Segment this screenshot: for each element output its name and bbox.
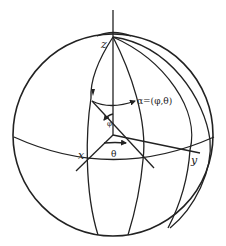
- y-axis: [113, 135, 200, 153]
- direction-vector: [92, 101, 154, 168]
- alpha-label: α=(φ,θ): [137, 96, 172, 106]
- y-label: y: [190, 154, 198, 167]
- meridian-lines: [87, 37, 210, 235]
- theta-arc: [104, 143, 126, 144]
- x-label: x: [78, 149, 85, 162]
- z-label: z: [100, 38, 107, 51]
- sphere-diagram: z x y α=(φ,θ) φ θ: [0, 0, 226, 246]
- theta-label: θ: [111, 149, 116, 159]
- phi-label: φ: [107, 120, 112, 128]
